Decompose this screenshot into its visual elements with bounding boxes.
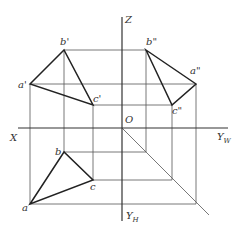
yh-axis-label: YH xyxy=(126,210,140,224)
yw-axis-label: YW xyxy=(217,131,232,145)
label-b-prime: b' xyxy=(60,36,69,47)
label-b: b xyxy=(55,146,61,157)
label-c: c xyxy=(90,181,96,192)
x-axis-label: X xyxy=(9,132,18,143)
label-b-double-prime: b" xyxy=(146,36,157,47)
projection-diagram: Z X O YW YH b' a' c' b" a" c" b c a xyxy=(0,0,242,241)
z-axis-label: Z xyxy=(124,14,133,25)
front-view-triangle xyxy=(30,50,93,105)
label-c-double-prime: c" xyxy=(172,105,182,116)
origin-label: O xyxy=(125,114,133,125)
label-a-prime: a' xyxy=(18,79,27,90)
axes xyxy=(18,17,228,221)
top-view-triangle xyxy=(30,152,93,204)
label-a-double-prime: a" xyxy=(190,65,201,76)
label-a: a xyxy=(22,202,28,213)
side-view-triangle xyxy=(146,50,196,105)
label-c-prime: c' xyxy=(93,93,101,104)
